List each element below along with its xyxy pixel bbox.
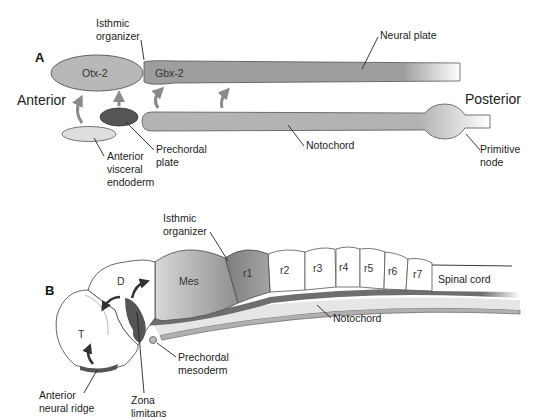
otx2-label: Otx-2 (82, 67, 108, 79)
panel-b-label: B (45, 283, 54, 298)
anr-label-line1: Anterior (39, 389, 76, 401)
primitive-node-label-line2: node (480, 156, 504, 168)
ave-label-line1: Anterior (107, 150, 144, 162)
r7-label: r7 (413, 268, 422, 280)
neural-plate-label: Neural plate (380, 29, 437, 41)
panel-b: B r2 r3 r4 r5 r6 r7 Spinal cord r1 M (39, 212, 520, 419)
spinal-cord-top-outline (432, 265, 512, 266)
zona-limitans-label-line2: limitans (131, 407, 167, 419)
r6-label: r6 (388, 265, 397, 277)
r5-label: r5 (364, 262, 373, 274)
gbx2-label: Gbx-2 (155, 67, 184, 79)
isthmic-organizer-label-a-line2: organizer (96, 30, 140, 42)
prechordal-plate (100, 108, 138, 126)
d-label: D (117, 275, 125, 287)
prechordal-mesoderm-label-line1: Prechordal (178, 351, 229, 363)
mes-label: Mes (179, 275, 199, 287)
t-label: T (78, 328, 85, 340)
rhombomeres (268, 247, 432, 292)
isthmic-organizer-label-b-line1: Isthmic (163, 212, 196, 224)
primitive-node-leader (466, 134, 480, 150)
prechordal-plate-label-line2: plate (156, 156, 179, 168)
neural-plate-gbx2 (144, 61, 460, 85)
zona-limitans-label-line1: Zona (131, 394, 155, 406)
r1-label: r1 (243, 267, 252, 279)
isthmic-organizer-label-b-line2: organizer (163, 225, 207, 237)
spinal-cord-label: Spinal cord (438, 273, 491, 285)
anr-leader (84, 370, 97, 393)
r4-label: r4 (339, 261, 348, 273)
prechordal-mesoderm (150, 337, 157, 344)
notochord-a (142, 104, 490, 139)
isthmic-organizer-label-a-line1: Isthmic (96, 17, 129, 29)
induction-arrow-icon-3 (155, 91, 160, 108)
anterior-label: Anterior (17, 92, 66, 108)
prechordal-plate-label-line1: Prechordal (156, 143, 207, 155)
notochord-label-b: Notochord (333, 312, 382, 324)
anterior-visceral-endoderm (62, 127, 116, 142)
panel-a: A Otx-2 Gbx-2 Isthmic organizer Neural p… (17, 17, 521, 188)
prechordal-mesoderm-label-line2: mesoderm (178, 364, 228, 376)
posterior-label: Posterior (465, 91, 521, 107)
induction-arrow-icon-4 (222, 92, 227, 108)
notochord-label-a: Notochord (306, 139, 355, 151)
r2-label: r2 (280, 264, 289, 276)
r3-label: r3 (313, 262, 322, 274)
prechordal-mesoderm-leader (157, 343, 176, 357)
neural-patterning-diagram: A Otx-2 Gbx-2 Isthmic organizer Neural p… (0, 0, 546, 420)
induction-arrow-icon-1 (77, 100, 82, 123)
panel-a-label: A (35, 50, 45, 65)
isthmic-organizer-leader-a (141, 40, 144, 60)
anr-label-line2: neural ridge (39, 402, 95, 414)
ave-label-line3: endoderm (107, 176, 155, 188)
primitive-node-label-line1: Primitive (480, 143, 520, 155)
ave-label-line2: visceral (107, 163, 143, 175)
